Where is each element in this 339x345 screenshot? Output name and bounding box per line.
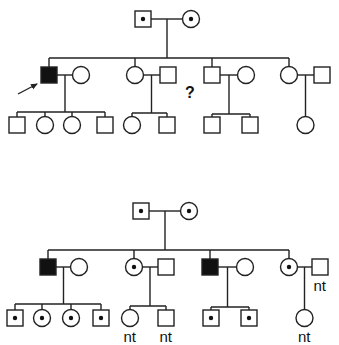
- carrier-dot-icon: [132, 265, 136, 269]
- carrier-dot-icon: [99, 316, 103, 320]
- male-unaffected-symbol: [314, 67, 330, 83]
- male-unaffected-symbol: [204, 117, 220, 133]
- male-unaffected-symbol: [242, 117, 258, 133]
- female-unaffected-symbol: [64, 117, 81, 134]
- carrier-dot-icon: [13, 316, 17, 320]
- unknown-status-marker: ?: [185, 85, 195, 101]
- carrier-dot-icon: [189, 17, 193, 21]
- carrier-dot-icon: [187, 209, 191, 213]
- male-unaffected-symbol: [312, 259, 328, 275]
- carrier-dot-icon: [247, 316, 251, 320]
- female-unaffected-symbol: [71, 259, 88, 276]
- female-unaffected-symbol: [37, 117, 54, 134]
- male-unaffected-symbol: [158, 310, 174, 326]
- male-affected-symbol: [202, 259, 218, 275]
- male-unaffected-symbol: [9, 117, 25, 133]
- male-unknown-symbol: [204, 67, 220, 83]
- pedigree-diagram: [0, 0, 339, 345]
- female-unaffected-symbol: [237, 259, 254, 276]
- female-unaffected-symbol: [281, 67, 298, 84]
- not-tested-label: nt: [160, 329, 173, 344]
- carrier-dot-icon: [287, 265, 291, 269]
- not-tested-label: nt: [124, 329, 137, 344]
- male-unaffected-symbol: [159, 117, 175, 133]
- female-unaffected-symbol: [124, 117, 141, 134]
- female-unaffected-symbol: [238, 67, 255, 84]
- carrier-dot-icon: [40, 316, 44, 320]
- male-unaffected-symbol: [97, 117, 113, 133]
- carrier-dot-icon: [209, 316, 213, 320]
- male-affected-symbol: [41, 67, 57, 83]
- not-tested-label: nt: [298, 329, 311, 344]
- female-unaffected-symbol: [127, 67, 144, 84]
- male-unaffected-symbol: [158, 259, 174, 275]
- male-affected-symbol: [40, 259, 56, 275]
- male-unaffected-symbol: [160, 67, 176, 83]
- carrier-dot-icon: [141, 17, 145, 21]
- female-unaffected-symbol: [73, 67, 90, 84]
- carrier-dot-icon: [139, 209, 143, 213]
- carrier-dot-icon: [69, 316, 73, 320]
- female-unaffected-symbol: [296, 310, 313, 327]
- female-unaffected-symbol: [297, 117, 314, 134]
- proband-arrow-icon: [18, 84, 37, 94]
- not-tested-label: nt: [314, 278, 327, 293]
- female-unaffected-symbol: [122, 310, 139, 327]
